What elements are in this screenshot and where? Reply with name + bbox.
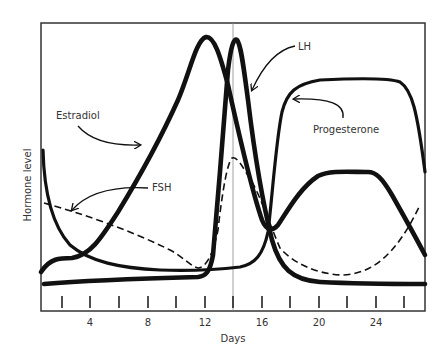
x-tick-label-16: 16 [256, 317, 269, 328]
estradiol-arrow-icon [78, 126, 140, 145]
progesterone-label: Progesterone [313, 124, 379, 135]
progesterone-arrow-icon [294, 99, 343, 118]
x-axis-label: Days [221, 333, 246, 344]
lh-label: LH [298, 41, 311, 52]
x-tick-label-20: 20 [313, 317, 326, 328]
x-tick-label-12: 12 [199, 317, 212, 328]
fsh-arrow-icon [72, 188, 148, 210]
lh-curve [44, 40, 425, 284]
x-tick-label-4: 4 [87, 317, 93, 328]
x-tick-label-24: 24 [370, 317, 383, 328]
fsh-curve [44, 158, 420, 275]
x-axis-ticks [62, 296, 404, 308]
hormone-chart: 4 8 12 16 20 24 Days Hormone level Estra… [0, 0, 448, 362]
y-axis-label: Hormone level [22, 149, 33, 222]
estradiol-label: Estradiol [56, 110, 100, 121]
fsh-label: FSH [152, 182, 171, 193]
x-tick-label-8: 8 [145, 317, 151, 328]
lh-arrow-icon [252, 46, 295, 90]
